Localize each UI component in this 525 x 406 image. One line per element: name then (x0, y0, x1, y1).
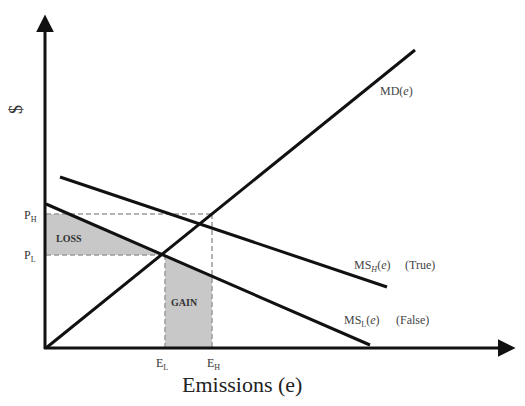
ms-h-note: (True) (405, 258, 435, 272)
x-axis-label: Emissions (e) (182, 372, 302, 397)
md-curve (46, 50, 415, 348)
ms-h-label: MSH(e) (354, 258, 390, 274)
economics-diagram: $ PH PL EL EH Emissions (e) LOSS GAIN MD… (0, 0, 525, 406)
ms-l-label: MSL(e) (344, 313, 380, 329)
y-axis-label: $ (6, 105, 26, 114)
pl-label: PL (24, 248, 36, 264)
gain-label: GAIN (171, 297, 198, 308)
ph-label: PH (24, 208, 37, 224)
loss-label: LOSS (56, 233, 82, 244)
md-label: MD(e) (380, 84, 413, 98)
eh-label: EH (207, 356, 220, 372)
ms-l-note: (False) (396, 313, 429, 327)
el-label: EL (156, 356, 168, 372)
